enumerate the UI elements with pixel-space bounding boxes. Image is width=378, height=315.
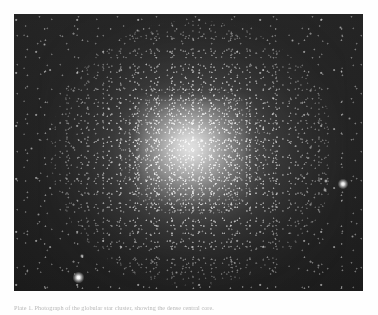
caption-text: Plate 1. Photograph of the globular star… [14,303,364,312]
figure-container [14,14,363,291]
caption-region: Plate 1. Photograph of the globular star… [14,303,364,315]
film-grain-overlay [14,14,363,291]
astronomical-plate-image [14,14,363,291]
page-canvas: Plate 1. Photograph of the globular star… [0,0,378,315]
